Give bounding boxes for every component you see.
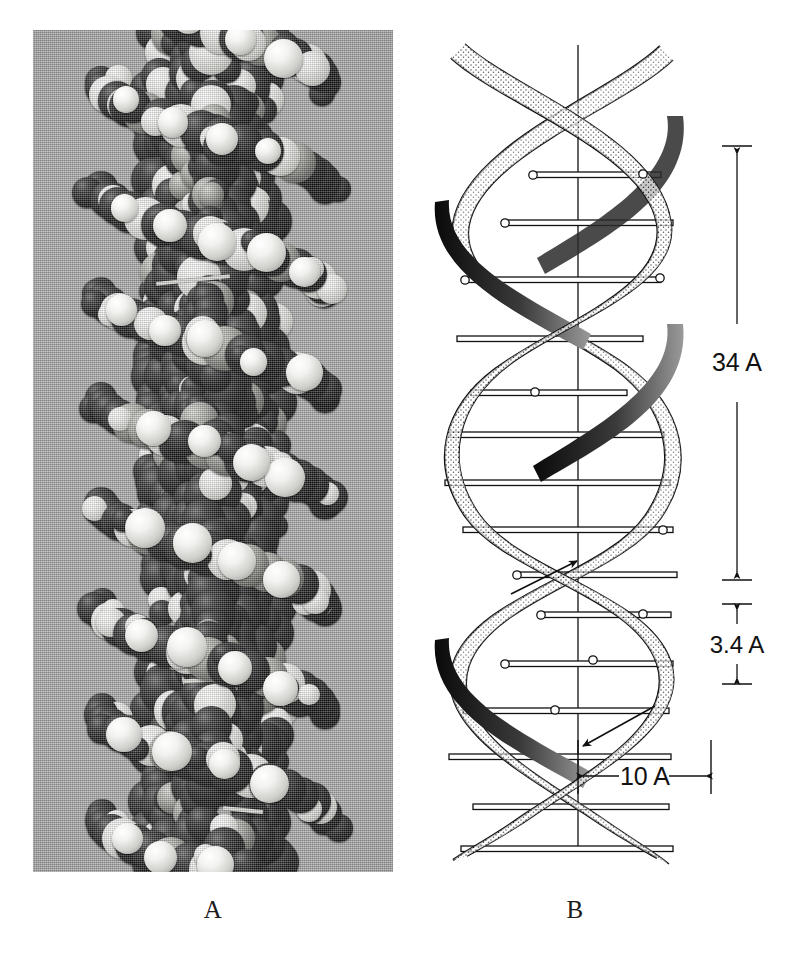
model-atom [152,732,191,771]
diameter-label: 10 A [620,762,670,790]
model-atom [289,257,320,288]
base-pair-rung [463,708,669,714]
double-helix-drawing: 34 A 3.4 A 10 A [405,24,796,874]
space-filling-model [33,30,393,872]
sugar-marker [639,170,647,178]
model-atom [218,542,256,580]
model-atom [136,411,171,446]
sugar-marker [589,656,597,664]
sugar-marker [529,171,537,179]
sugar-marker [659,526,667,534]
model-atom [158,107,188,137]
dna-double-helix-figure: 34 A 3.4 A 10 A A B [0,0,796,970]
sugar-marker [513,571,521,579]
panel-a-photograph [33,30,393,872]
model-atom [144,841,177,872]
dimension-pitch-34a: 34 A [712,146,762,580]
model-atom [111,194,138,221]
model-atom [250,765,288,803]
model-atom [240,348,267,375]
model-atom [263,561,300,598]
panel-a-caption: A [33,896,393,924]
panel-b-caption: B [450,896,700,924]
sugar-marker [461,276,469,284]
sugar-marker [501,660,509,668]
model-atom [125,508,165,548]
model-atom [112,823,143,854]
model-atom [286,354,323,391]
panel-b-diagram: 34 A 3.4 A 10 A [405,24,796,874]
model-atom [255,138,281,164]
base-pair-rung [541,612,671,618]
base-pair-rung [450,432,664,438]
dimension-rise-34a: 3.4 A [710,604,765,684]
sugar-marker [537,611,545,619]
base-pair-rung [471,390,627,396]
base-pair-rung [505,220,673,226]
model-atom [153,209,186,242]
dna-strand-front [435,44,684,860]
model-atom [247,233,286,272]
model-atom [149,315,180,346]
model-atom [209,749,239,779]
model-atom [264,39,303,78]
model-atom [106,294,137,325]
model-atom [167,627,207,667]
sugar-marker [551,706,559,714]
model-atom [263,671,298,706]
sugar-marker [531,388,539,396]
model-atom [198,223,236,261]
model-atom [265,458,305,498]
model-atom [233,444,270,481]
rise-label: 3.4 A [710,631,765,658]
base-pair-rung [445,480,670,486]
model-atom [206,123,238,155]
sugar-marker [656,274,664,282]
model-atom [298,684,319,705]
model-atom [106,717,141,752]
model-atom [173,523,212,562]
sugar-marker [639,610,647,618]
model-atom [188,425,220,457]
model-atom [187,320,223,356]
sugar-marker [501,219,509,227]
pitch-label: 34 A [712,348,762,376]
